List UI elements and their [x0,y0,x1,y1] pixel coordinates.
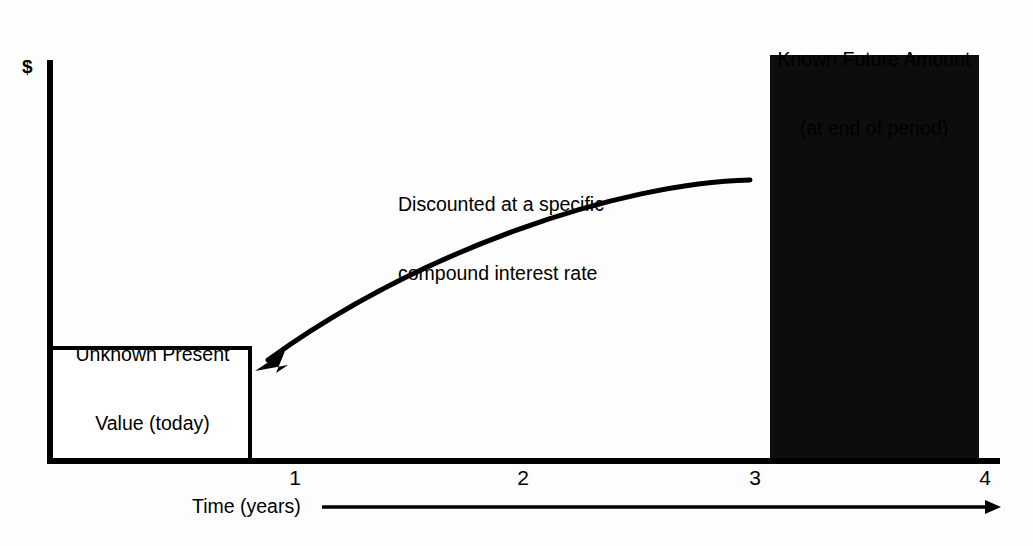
x-tick-label-4: 4 [965,466,1005,491]
x-tick-label-3: 3 [735,466,775,491]
present-value-label-line2: Value (today) [50,412,255,435]
discount-note-line2: compound interest rate [398,262,728,285]
x-tick-label-2: 2 [503,466,543,491]
present-value-figure: $ Known Future Amount (at end of period)… [0,0,1033,546]
y-axis-dollar-label: $ [22,56,33,78]
discount-arrowhead-icon [255,351,288,373]
future-amount-label: Known Future Amount (at end of period) [724,2,1024,186]
x-axis-caption: Time (years) [192,495,301,518]
present-value-label-line1: Unknown Present [50,343,255,366]
present-value-label: Unknown Present Value (today) [50,297,255,481]
future-amount-label-line2: (at end of period) [724,117,1024,140]
discount-note-label: Discounted at a specific compound intere… [398,147,728,331]
future-amount-label-line1: Known Future Amount [724,48,1024,71]
x-tick-label-1: 1 [275,466,315,491]
discount-note-line1: Discounted at a specific [398,193,728,216]
time-axis-arrowhead-icon [985,500,1001,514]
